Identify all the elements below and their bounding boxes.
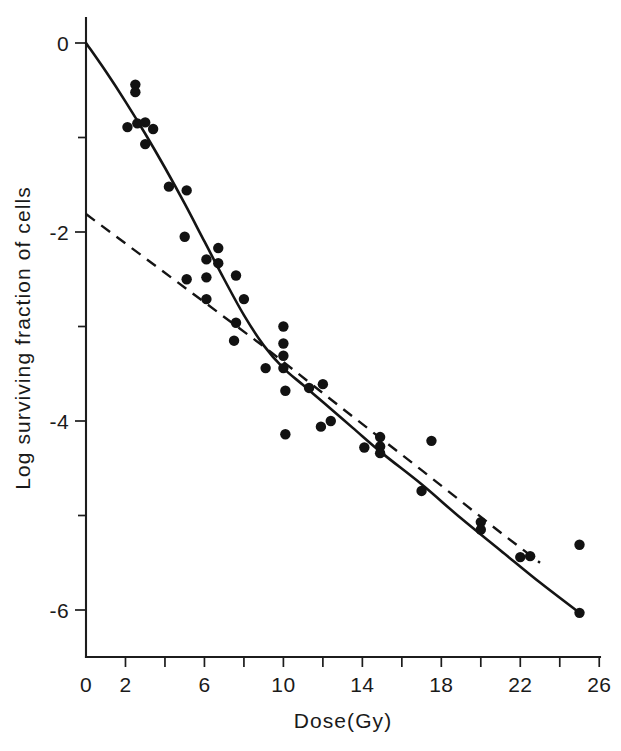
- x-tick-label: 10: [271, 673, 295, 696]
- data-point: [148, 124, 158, 134]
- x-axis-ticks: [125, 657, 599, 667]
- data-point: [164, 181, 174, 191]
- data-point: [375, 432, 385, 442]
- plot-canvas: 0-2-4-6 0261014182226 Dose(Gy) Log survi…: [0, 0, 621, 751]
- data-point: [213, 243, 223, 253]
- y-tick-label: -6: [50, 599, 69, 622]
- survival-curve-figure: 0-2-4-6 0261014182226 Dose(Gy) Log survi…: [0, 0, 621, 751]
- x-tick-label: 2: [119, 673, 131, 696]
- data-point: [130, 87, 140, 97]
- x-tick-label: 26: [587, 673, 611, 696]
- data-point: [201, 272, 211, 282]
- data-point: [515, 552, 525, 562]
- data-point: [201, 294, 211, 304]
- y-tick-label: -4: [50, 410, 69, 433]
- data-point: [280, 386, 290, 396]
- y-tick-label: -2: [50, 221, 69, 244]
- x-tick-label: 14: [350, 673, 374, 696]
- data-point: [231, 270, 241, 280]
- data-point: [316, 421, 326, 431]
- data-point: [375, 448, 385, 458]
- data-point: [231, 318, 241, 328]
- data-point: [278, 321, 288, 331]
- y-tick-label: 0: [57, 32, 69, 55]
- x-tick-label: 22: [508, 673, 532, 696]
- data-point: [260, 363, 270, 373]
- data-point: [318, 379, 328, 389]
- data-point: [280, 429, 290, 439]
- x-tick-label: 18: [429, 673, 453, 696]
- data-point: [304, 383, 314, 393]
- y-axis-ticks: [75, 43, 86, 610]
- data-point: [278, 338, 288, 348]
- data-point: [326, 416, 336, 426]
- y-axis-title: Log surviving fraction of cells: [11, 186, 34, 490]
- data-point: [181, 274, 191, 284]
- scatter-data-points: [122, 79, 584, 618]
- data-point: [181, 185, 191, 195]
- data-point: [574, 608, 584, 618]
- data-point: [574, 540, 584, 550]
- data-point: [278, 351, 288, 361]
- x-tick-label: 0: [80, 673, 92, 696]
- data-point: [426, 436, 436, 446]
- linear-quadratic-fit-curve: [86, 43, 580, 613]
- data-point: [213, 258, 223, 268]
- data-point: [525, 551, 535, 561]
- data-point: [140, 139, 150, 149]
- data-point: [359, 442, 369, 452]
- data-point: [201, 254, 211, 264]
- x-axis-tick-labels: 0261014182226: [80, 673, 611, 696]
- data-point: [476, 524, 486, 534]
- data-point: [416, 486, 426, 496]
- data-point: [229, 335, 239, 345]
- x-tick-label: 6: [198, 673, 210, 696]
- data-point: [239, 294, 249, 304]
- data-point: [122, 122, 132, 132]
- y-axis-tick-labels: 0-2-4-6: [50, 32, 69, 622]
- data-point: [278, 363, 288, 373]
- x-axis-title: Dose(Gy): [294, 709, 393, 732]
- data-point: [180, 232, 190, 242]
